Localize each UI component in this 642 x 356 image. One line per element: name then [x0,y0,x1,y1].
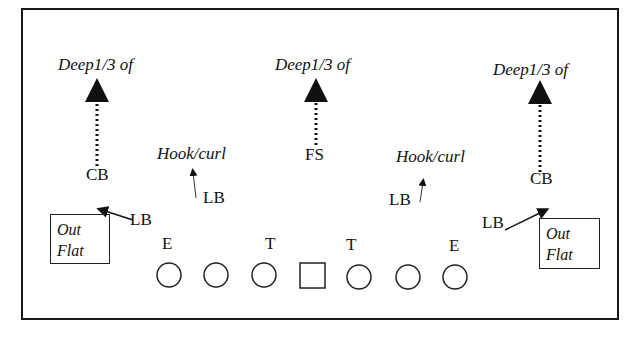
offense-center [300,263,325,288]
offense-player-2 [204,263,228,287]
zone-flat-right: Out Flat [539,218,600,269]
defender-lb-flat-left: LB [130,211,152,229]
zone-deep-middle: Deep1/3 of [275,56,350,74]
zone-flat-left-line1: Out [57,219,109,240]
line-t-left: T [265,235,275,253]
zone-flat-left: Out Flat [50,214,110,264]
zone-flat-right-line1: Out [546,223,599,244]
zone-hook-right: Hook/curl [396,148,465,166]
zone-flat-left-line2: Flat [57,240,109,261]
offense-player-3 [252,263,276,287]
zone-flat-right-line2: Flat [546,244,599,265]
defender-lb-hook-right: LB [389,191,411,209]
arrow-lb-hook-right [420,182,423,202]
defender-lb-flat-right: LB [482,214,504,232]
offense-player-1 [157,263,181,287]
zone-deep-right: Deep1/3 of [493,61,568,79]
zone-deep-left: Deep1/3 of [58,56,133,74]
defender-lb-hook-left: LB [203,189,225,207]
line-e-left: E [162,235,172,253]
offense-player-6 [396,265,420,289]
zone-hook-left: Hook/curl [157,145,226,163]
defender-cb-right: CB [530,170,553,188]
arrow-lb-hook-left [193,172,196,198]
offense-player-5 [347,265,371,289]
defender-cb-left: CB [86,166,109,184]
defender-fs: FS [305,146,324,164]
offense-player-7 [443,265,467,289]
line-e-right: E [449,237,459,255]
line-t-right: T [346,236,356,254]
